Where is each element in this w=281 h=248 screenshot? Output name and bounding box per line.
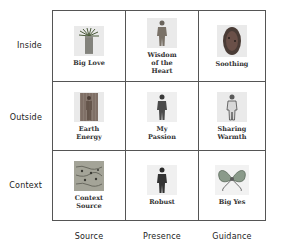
cell-inside-presence: Wisdom of the Heart — [126, 11, 199, 82]
oval-glow-icon — [217, 25, 247, 57]
texture-pattern-icon — [74, 161, 104, 191]
textured-figure-icon — [74, 92, 104, 122]
cell-caption: Earth Energy — [76, 125, 102, 141]
bow-ribbon-icon — [215, 165, 249, 195]
cell-caption: Soothing — [216, 60, 249, 68]
cell-context-source: Context Source — [53, 151, 126, 220]
cell-caption: My Passion — [148, 125, 176, 141]
human-figure-icon — [147, 92, 177, 122]
cell-outside-presence: My Passion — [126, 82, 199, 151]
cell-caption: Big Love — [73, 59, 105, 67]
row-label-inside: Inside — [17, 41, 42, 50]
cell-outside-source: Earth Energy — [53, 82, 126, 151]
cell-caption: Robust — [149, 198, 175, 206]
cell-inside-source: Big Love — [53, 11, 126, 82]
plant-figure-icon — [74, 26, 104, 56]
col-label-presence: Presence — [127, 232, 197, 241]
cell-context-guidance: Big Yes — [199, 151, 265, 220]
cell-caption: Big Yes — [219, 198, 246, 206]
col-label-guidance: Guidance — [197, 232, 267, 241]
col-label-source: Source — [54, 232, 124, 241]
row-label-outside: Outside — [10, 113, 42, 122]
cell-context-presence: Robust — [126, 151, 199, 220]
light-figure-icon — [217, 92, 247, 122]
cell-outside-guidance: Sharing Warmth — [199, 82, 265, 151]
cell-caption: Context Source — [75, 194, 103, 210]
cell-caption: Wisdom of the Heart — [147, 51, 176, 75]
cell-inside-guidance: Soothing — [199, 11, 265, 82]
matrix-grid: Big Love Wisdom of the Heart Soothing — [52, 10, 266, 221]
human-figure-icon — [147, 18, 177, 48]
cell-caption: Sharing Warmth — [218, 125, 247, 141]
row-label-context: Context — [9, 181, 42, 190]
dark-figure-icon — [147, 165, 177, 195]
